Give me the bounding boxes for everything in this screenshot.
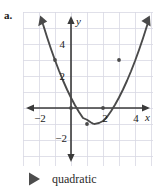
axis-labels: y x xyxy=(75,15,150,123)
y-tick-label-neg2: −2 xyxy=(55,132,67,144)
item-label: a. xyxy=(4,10,12,21)
plotted-point xyxy=(69,106,73,110)
y-tick-label-4: 4 xyxy=(60,38,66,50)
y-axis-arrow-up xyxy=(67,16,74,24)
plotted-point xyxy=(85,122,89,126)
curve-arrow-right xyxy=(141,15,150,26)
x-tick-label-4: 4 xyxy=(133,112,139,124)
y-tick-label-2: 2 xyxy=(60,70,66,82)
y-axis-arrow-down xyxy=(67,154,74,162)
plotted-point xyxy=(101,106,105,110)
x-axis-arrow-left xyxy=(26,104,34,111)
caption-row: quadratic xyxy=(28,169,158,189)
coordinate-plane: −2 2 4 4 2 −2 y x xyxy=(23,12,153,166)
y-axis-label: y xyxy=(75,15,81,27)
caption-label: quadratic xyxy=(52,173,97,185)
play-triangle-icon xyxy=(28,172,41,186)
graph-panel: −2 2 4 4 2 −2 y x xyxy=(23,12,153,166)
plotted-point xyxy=(53,58,57,62)
quadratic-graph-figure: a. xyxy=(0,0,158,191)
plotted-point xyxy=(117,58,121,62)
x-axis-label: x xyxy=(144,111,150,123)
x-tick-label-2: 2 xyxy=(102,112,108,124)
grid-lines xyxy=(23,12,153,166)
x-tick-label-neg2: −2 xyxy=(34,112,46,124)
